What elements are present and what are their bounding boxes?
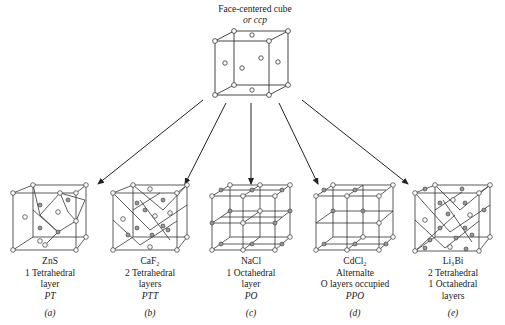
label-caf2: CaF₂2 TetrahedrallayersPTT(b) [95,256,205,320]
label-cdcl2: CdCl₂AlternalteO layers occupiedPPO(d) [300,256,410,320]
fcc-title: Face-centered cube or ccp [180,4,330,26]
cdcl2-cube [316,185,393,250]
label-nacl: NaCl1 OctahedrallayerPO(c) [196,256,306,320]
label-li3bi: Li₃Bi2 Tetrahedral1 Octahedrallayers(e) [398,256,505,320]
nacl-cube [212,185,290,250]
label-zns: ZnS1 TetrahedrallayerPT(a) [0,256,105,320]
